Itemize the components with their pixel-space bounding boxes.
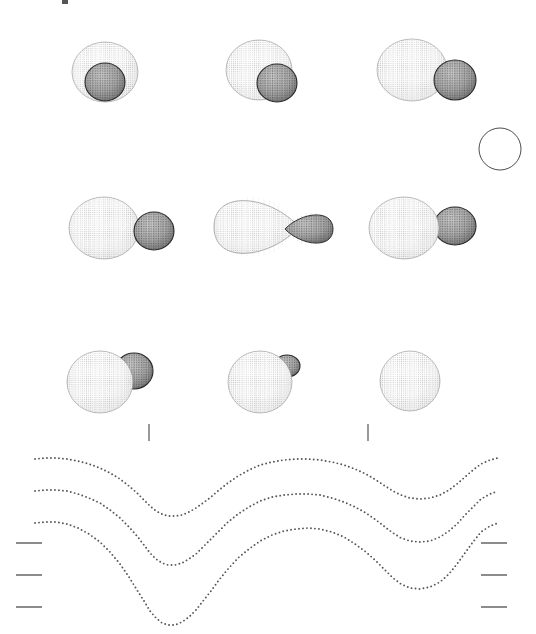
phase-panel-6-secondary [434,207,476,245]
binary-star-figure [0,0,536,634]
phase-panel-4-secondary [134,212,174,250]
top-edge-artifact [62,0,68,4]
phase-panel-3-secondary [434,60,476,100]
phase-panel-1-secondary [85,63,125,101]
phase-panel-6-primary [369,197,439,259]
phase-panel-7-primary [67,351,133,413]
phase-panel-4-primary [69,197,139,259]
phase-panel-1 [72,42,138,102]
figure-canvas [0,0,536,634]
phase-panel-2-secondary [257,64,297,102]
phase-panel-9 [380,351,440,411]
phase-panel-8-primary [228,351,292,413]
phase-panel-9-primary [380,351,440,411]
